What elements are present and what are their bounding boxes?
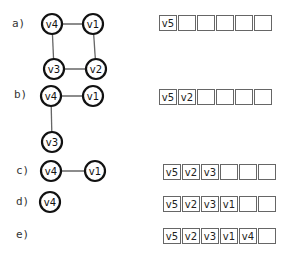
queue-cell bbox=[258, 164, 276, 180]
queue-cell: v5 bbox=[159, 15, 177, 31]
svg-text:v3: v3 bbox=[48, 64, 60, 75]
queue-cell: v3 bbox=[201, 228, 219, 244]
queue-array-e: v5v2v3v1v4 bbox=[163, 228, 277, 244]
queue-cell: v2 bbox=[182, 228, 200, 244]
queue-cell: v2 bbox=[178, 89, 196, 105]
svg-text:v4: v4 bbox=[45, 166, 57, 177]
queue-cell: v5 bbox=[159, 89, 177, 105]
queue-cell: v1 bbox=[220, 228, 238, 244]
node-v3: v3 bbox=[42, 132, 62, 152]
svg-text:v1: v1 bbox=[89, 166, 101, 177]
queue-cell: v3 bbox=[201, 196, 219, 212]
queue-cell bbox=[216, 89, 234, 105]
graph-diagrams: v4v1v3v2v4v1v3v4v1v4 bbox=[0, 0, 285, 253]
queue-cell bbox=[254, 89, 272, 105]
node-v3: v3 bbox=[44, 59, 64, 79]
queue-cell bbox=[197, 89, 215, 105]
queue-cell bbox=[235, 89, 253, 105]
svg-text:v4: v4 bbox=[45, 91, 57, 102]
queue-cell: v1 bbox=[220, 196, 238, 212]
node-v4: v4 bbox=[40, 192, 60, 212]
node-v4: v4 bbox=[41, 161, 61, 181]
node-v1: v1 bbox=[85, 161, 105, 181]
node-v1: v1 bbox=[83, 86, 103, 106]
queue-array-c: v5v2v3 bbox=[163, 164, 277, 180]
queue-cell bbox=[258, 228, 276, 244]
svg-text:v4: v4 bbox=[46, 19, 58, 30]
queue-cell bbox=[216, 15, 234, 31]
queue-cell: v5 bbox=[163, 164, 181, 180]
queue-array-a: v5 bbox=[159, 15, 273, 31]
queue-cell bbox=[254, 15, 272, 31]
node-v4: v4 bbox=[41, 86, 61, 106]
queue-cell: v2 bbox=[182, 164, 200, 180]
queue-cell bbox=[220, 164, 238, 180]
queue-cell: v2 bbox=[182, 196, 200, 212]
queue-array-d: v5v2v3v1 bbox=[163, 196, 277, 212]
queue-cell bbox=[239, 164, 257, 180]
queue-cell bbox=[235, 15, 253, 31]
node-v4: v4 bbox=[42, 14, 62, 34]
node-v1: v1 bbox=[83, 14, 103, 34]
queue-cell: v5 bbox=[163, 196, 181, 212]
queue-cell bbox=[258, 196, 276, 212]
queue-cell: v3 bbox=[201, 164, 219, 180]
queue-cell bbox=[197, 15, 215, 31]
node-v2: v2 bbox=[86, 59, 106, 79]
svg-text:v2: v2 bbox=[90, 64, 102, 75]
svg-text:v1: v1 bbox=[87, 91, 99, 102]
svg-text:v1: v1 bbox=[87, 19, 99, 30]
queue-cell bbox=[239, 196, 257, 212]
svg-text:v3: v3 bbox=[46, 137, 58, 148]
queue-cell: v5 bbox=[163, 228, 181, 244]
svg-text:v4: v4 bbox=[44, 197, 56, 208]
queue-cell: v4 bbox=[239, 228, 257, 244]
queue-cell bbox=[178, 15, 196, 31]
queue-array-b: v5v2 bbox=[159, 89, 273, 105]
